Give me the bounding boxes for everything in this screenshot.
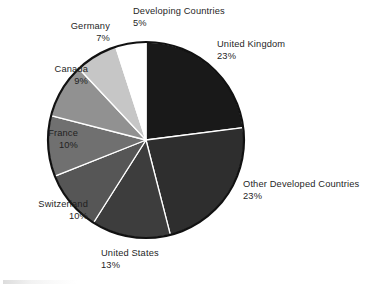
- slice-label-name: Switzerland: [8, 199, 88, 211]
- slice-label-developing-countries: Developing Countries 5%: [133, 6, 225, 29]
- slice-label-other-developed-countries: Other Developed Countries 23%: [243, 179, 359, 202]
- slice-label-value: 5%: [133, 18, 225, 30]
- slice-label-name: United Kingdom: [217, 39, 285, 51]
- slice-label-value: 10%: [8, 211, 88, 223]
- slice-label-name: France: [10, 128, 78, 140]
- scan-artifact: [3, 280, 77, 284]
- slice-label-switzerland: Switzerland 10%: [8, 199, 88, 222]
- slice-label-name: Canada: [22, 64, 88, 76]
- slice-label-united-kingdom: United Kingdom 23%: [217, 39, 285, 62]
- slice-label-name: Germany: [45, 21, 110, 33]
- slice-label-value: 9%: [22, 76, 88, 88]
- slice-label-value: 23%: [217, 51, 285, 63]
- slice-label-name: Other Developed Countries: [243, 179, 359, 191]
- slice-label-united-states: United States 13%: [101, 248, 191, 271]
- slice-label-value: 23%: [243, 191, 359, 203]
- slice-label-value: 10%: [10, 140, 78, 152]
- slice-label-germany: Germany 7%: [45, 21, 110, 44]
- slice-label-name: Developing Countries: [133, 6, 225, 18]
- slice-label-value: 7%: [45, 33, 110, 45]
- slice-label-france: France 10%: [10, 128, 78, 151]
- pie-chart-figure: Developing Countries 5% Germany 7% Canad…: [0, 0, 381, 287]
- slice-label-canada: Canada 9%: [22, 64, 88, 87]
- slice-label-value: 13%: [101, 260, 191, 272]
- slice-label-name: United States: [101, 248, 191, 260]
